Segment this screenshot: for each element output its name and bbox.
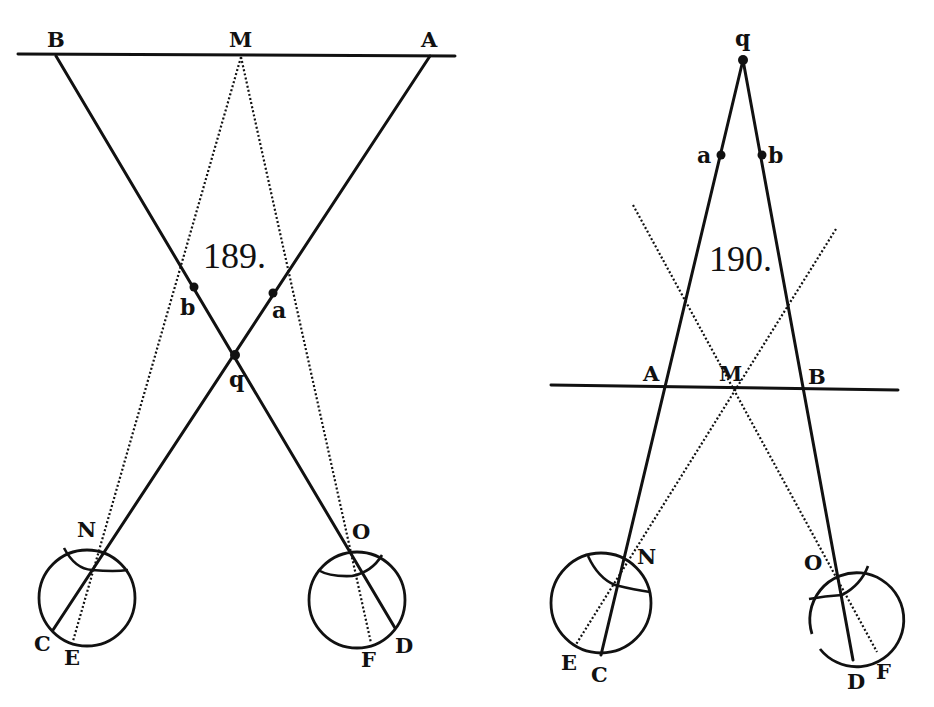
fig189-label-E: E [64,645,80,670]
fig190-label-C: C [591,662,608,687]
fig189-label-B: B [47,27,65,52]
fig190-label-E: E [561,650,577,675]
fig190-label-A: A [642,361,660,386]
fig189-dotted-M-E [73,57,241,641]
fig190-label-D: D [847,669,865,694]
fig189-eye-left [39,548,135,646]
fig189-label-a: a [272,297,286,323]
fig190-label-O: O [804,550,822,575]
fig189-label-A: A [420,27,438,52]
diagram-canvas: B M A 189. b a q N O C E F D [0,0,934,707]
fig189-lens-arc-right [318,555,382,576]
fig190-label-a: a [697,142,711,168]
fig189-label-D: D [395,633,413,658]
fig190-figure-number: 190. [709,239,772,279]
fig189-label-F: F [361,647,376,672]
fig190-label-N: N [637,544,656,569]
fig190-label-M: M [719,361,742,386]
fig189-figure-number: 189. [203,236,266,276]
fig189-eyeball-left [39,550,135,646]
fig190-label-B: B [808,364,826,389]
fig189-label-b: b [180,294,195,320]
fig190-eyeball-right [810,573,904,667]
fig189-label-q: q [229,366,244,392]
fig189-label-M: M [229,27,252,52]
fig190-line-q-C [601,60,743,655]
fig190-point-q [738,55,748,65]
fig190-line-q-D [743,60,853,660]
fig190-label-F: F [876,659,891,684]
fig190-point-b [758,151,767,160]
fig190-label-q: q [735,25,750,51]
fig190-point-a [717,151,726,160]
figure-189: B M A 189. b a q N O C E F D [18,27,455,672]
fig189-label-C: C [34,631,51,656]
fig190-label-b: b [768,142,783,168]
fig189-label-O: O [352,519,370,544]
fig189-label-N: N [77,517,96,542]
figure-190: q a b 190. A M B N O E C D F [551,25,904,694]
fig189-line-A-C [53,56,430,630]
fig189-point-b [190,283,199,292]
fig189-point-q [230,350,240,360]
fig189-line-B-D [56,56,395,628]
fig189-baseline-BA [18,54,455,56]
